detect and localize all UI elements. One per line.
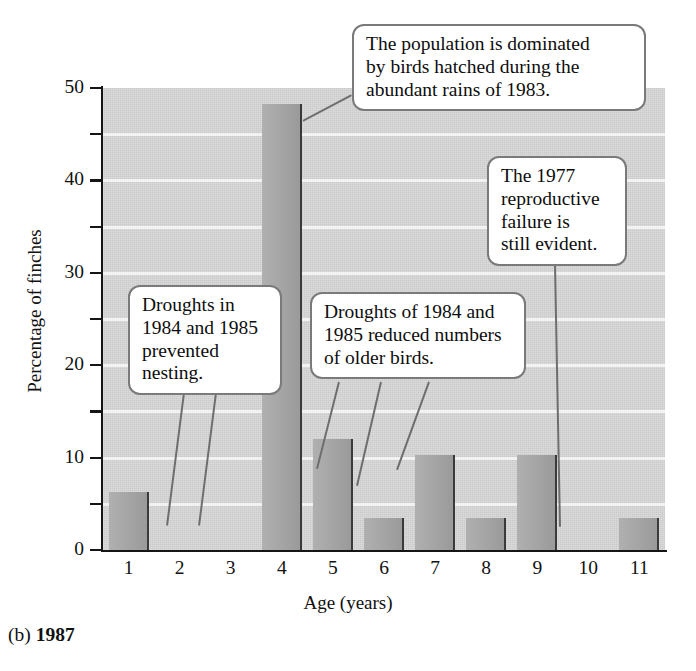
y-tick-label: 40 — [40, 169, 84, 189]
y-tick-label: 20 — [40, 354, 84, 374]
bar-age-9 — [517, 455, 557, 550]
y-tick-minor — [90, 318, 101, 320]
x-tick-label-9: 9 — [515, 558, 559, 578]
annotation-population-dominated: The population is dominated by birds hat… — [352, 24, 646, 111]
y-axis-title: Percentage of finches — [24, 181, 46, 441]
annotation-line: prevented — [142, 340, 268, 363]
caption-year: 1987 — [36, 624, 75, 645]
gridline — [103, 457, 665, 460]
bar-age-11 — [619, 518, 659, 550]
x-axis-title: Age (years) — [0, 592, 696, 614]
gridline — [103, 410, 665, 413]
y-tick-major — [90, 364, 101, 366]
annotation-line: Droughts of 1984 and — [324, 301, 512, 324]
y-tick-minor — [90, 226, 101, 228]
x-axis-line — [101, 550, 667, 552]
annotation-line: failure is — [501, 211, 613, 234]
x-tick-label-7: 7 — [413, 558, 457, 578]
y-tick-label: 0 — [40, 539, 84, 559]
annotation-line: The 1977 — [501, 165, 613, 188]
x-tick-label-5: 5 — [311, 558, 355, 578]
y-tick-major — [90, 179, 101, 181]
annotation-line: still evident. — [501, 233, 613, 256]
annotation-line: nesting. — [142, 362, 268, 385]
x-tick-label-10: 10 — [566, 558, 610, 578]
gridline — [103, 133, 665, 136]
annotation-1977-failure: The 1977 reproductive failure is still e… — [487, 156, 627, 266]
gridline — [103, 503, 665, 506]
figure-container: 01020304050 1234567891011 Age (years) Pe… — [0, 0, 696, 671]
y-tick-label: 30 — [40, 262, 84, 282]
annotation-line: by birds hatched during the — [366, 56, 632, 79]
annotation-line: The population is dominated — [366, 33, 632, 56]
x-tick-label-4: 4 — [260, 558, 304, 578]
y-axis-line — [101, 86, 103, 552]
y-tick-label: 10 — [40, 447, 84, 467]
x-tick-label-6: 6 — [362, 558, 406, 578]
y-tick-minor — [90, 133, 101, 135]
annotation-line: 1984 and 1985 — [142, 317, 268, 340]
x-tick-label-8: 8 — [464, 558, 508, 578]
y-tick-major — [90, 272, 101, 274]
y-tick-major — [90, 457, 101, 459]
y-tick-minor — [90, 503, 101, 505]
figure-caption: (b) 1987 — [8, 624, 75, 646]
x-tick-label-11: 11 — [617, 558, 661, 578]
annotation-droughts-reduced-older: Droughts of 1984 and 1985 reduced number… — [310, 292, 526, 379]
annotation-droughts-prevented-nesting: Droughts in 1984 and 1985 prevented nest… — [128, 285, 282, 395]
y-tick-major — [90, 549, 101, 551]
gridline — [103, 272, 665, 275]
bar-age-7 — [415, 455, 455, 550]
annotation-line: abundant rains of 1983. — [366, 79, 632, 102]
bar-age-6 — [364, 518, 404, 550]
x-tick-label-2: 2 — [158, 558, 202, 578]
x-tick-label-3: 3 — [209, 558, 253, 578]
y-tick-major — [90, 87, 101, 89]
bar-age-1 — [109, 492, 149, 550]
caption-prefix: (b) — [8, 624, 36, 645]
annotation-line: 1985 reduced numbers — [324, 324, 512, 347]
annotation-line: reproductive — [501, 188, 613, 211]
x-tick-label-1: 1 — [107, 558, 151, 578]
y-tick-minor — [90, 410, 101, 412]
annotation-line: Droughts in — [142, 294, 268, 317]
bar-age-8 — [466, 518, 506, 550]
annotation-line: of older birds. — [324, 347, 512, 370]
y-tick-label: 50 — [40, 77, 84, 97]
